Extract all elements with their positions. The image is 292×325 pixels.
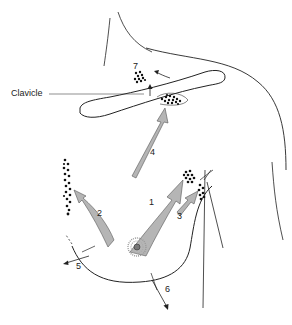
shoulder-outline [146,48,286,170]
arrow-2 [74,190,114,247]
diagram-drawing [0,0,292,325]
supraclavicular-nodes [134,71,146,83]
arrow-7b-head [154,70,159,75]
pathway-2-label: 2 [97,209,102,218]
neck-outline-right [118,12,152,52]
arrow-7b [156,72,170,78]
axillary-nodes-upper [183,170,196,184]
pathway-5-label: 5 [76,262,81,271]
internal-mammary-nodes [63,159,72,216]
pathway-7-label: 7 [133,62,138,71]
arrow-5-head [63,261,69,266]
neck-outline-left [104,18,110,66]
axilla-fold [200,170,213,180]
axilla-line-3 [207,182,223,248]
pathway-4-label: 4 [150,148,155,157]
arrow-6-head [164,304,169,310]
arrow-5-cross [82,246,95,252]
pathway-3-label: 3 [177,212,182,221]
arrow-7a-head [148,84,153,89]
nipple [134,244,140,250]
axillary-nodes-lower [198,184,206,201]
breast-fold-dashed [66,235,72,244]
axilla-line-2 [203,170,205,308]
clavicle-label: Clavicle [11,89,43,98]
breast-lymphatic-diagram: Clavicle 7 4 1 2 3 5 6 [0,0,292,325]
pathway-1-label: 1 [149,198,154,207]
arrow-4 [132,108,168,178]
pathway-6-label: 6 [165,285,170,294]
arm-outline [272,162,283,240]
